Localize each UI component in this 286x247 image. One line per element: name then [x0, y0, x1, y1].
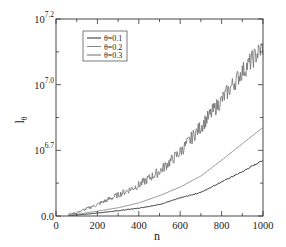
x-axis-label: n [154, 229, 160, 243]
x-tick-label: 0 [53, 220, 58, 231]
x-tick-label: 400 [131, 220, 147, 231]
x-tick-label: 600 [172, 220, 188, 231]
x-tick-labels: 02004006008001000 [53, 220, 273, 231]
y-tick-labels: 0.0106.7107.0107.2 [34, 10, 54, 222]
y-tick-label: 107.0 [34, 76, 54, 91]
legend: θ=0.1θ=0.2θ=0.3 [83, 31, 127, 61]
y-axis-label-subscript: θ [20, 116, 29, 120]
series-line-1 [68, 161, 262, 216]
series-line-2 [68, 128, 262, 215]
svg-text:lθ: lθ [13, 116, 29, 123]
series-line-3 [68, 43, 262, 214]
line-chart: 02004006008001000 0.0106.7107.0107.2 n l… [0, 0, 286, 247]
y-tick-label: 0.0 [41, 211, 54, 222]
x-tick-label: 200 [90, 220, 106, 231]
x-tick-label: 1000 [253, 220, 274, 231]
legend-label: θ=0.3 [104, 51, 122, 60]
plot-lines [68, 43, 262, 215]
x-tick-label: 800 [214, 220, 230, 231]
y-tick-label: 107.2 [34, 10, 54, 25]
y-axis-label: lθ [13, 116, 29, 123]
y-tick-label: 106.7 [34, 141, 54, 156]
